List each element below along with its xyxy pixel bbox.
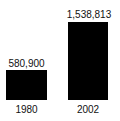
x-axis-label-1980: 1980 xyxy=(4,104,49,115)
bar-2002 xyxy=(68,22,108,100)
bar-value-label-2002: 1,538,813 xyxy=(58,9,120,20)
x-axis-label-2002: 2002 xyxy=(66,104,110,115)
bar-rect-1980 xyxy=(6,70,47,100)
bar-rect-2002 xyxy=(68,22,108,100)
bar-value-label-1980: 580,900 xyxy=(0,58,53,69)
bar-chart: 580,900 1,538,813 1980 2002 xyxy=(0,0,120,121)
bar-1980 xyxy=(6,70,47,100)
plot-area: 580,900 1,538,813 1980 2002 xyxy=(0,0,120,121)
